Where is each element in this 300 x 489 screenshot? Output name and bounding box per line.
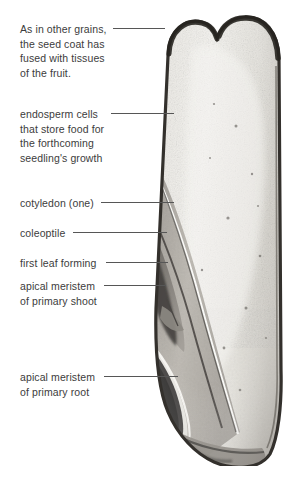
label-apical-meristem-root: apical meristem of primary root bbox=[20, 370, 95, 399]
label-first-leaf: first leaf forming bbox=[20, 256, 97, 271]
label-coleoptile: coleoptile bbox=[20, 226, 65, 241]
label-cotyledon: cotyledon (one) bbox=[20, 196, 94, 211]
leader-line-seed-coat bbox=[113, 28, 165, 29]
grain-specimen-image bbox=[140, 8, 288, 466]
leader-line-endosperm bbox=[111, 113, 174, 114]
leader-line-cotyledon bbox=[101, 202, 174, 203]
label-seed-coat: As in other grains, the seed coat has fu… bbox=[20, 22, 107, 80]
seed-anatomy-figure: As in other grains, the seed coat has fu… bbox=[0, 0, 300, 489]
leader-line-coleoptile bbox=[73, 232, 167, 233]
leader-line-apical-meristem-shoot bbox=[104, 285, 166, 286]
label-apical-meristem-shoot: apical meristem of primary shoot bbox=[20, 279, 97, 308]
label-endosperm: endosperm cells that store food for the … bbox=[20, 107, 104, 165]
leader-line-first-leaf bbox=[106, 262, 168, 263]
grain-section-illustration bbox=[140, 8, 288, 466]
leader-line-apical-meristem-root bbox=[104, 376, 178, 377]
